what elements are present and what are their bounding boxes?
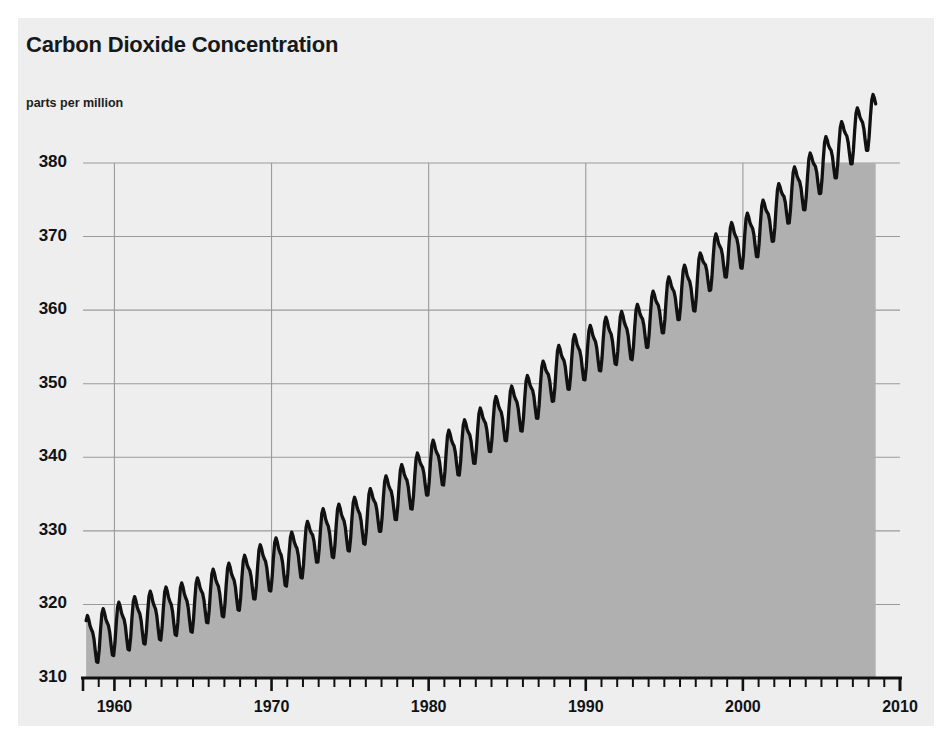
- x-axis-tick-label: 1980: [389, 698, 469, 716]
- x-axis-tick-label: 1990: [546, 698, 626, 716]
- y-axis-tick-label: 370: [7, 226, 67, 246]
- x-axis-tick-label: 1970: [232, 698, 312, 716]
- y-axis-tick-label: 330: [7, 520, 67, 540]
- chart-plot: [0, 0, 952, 744]
- x-axis-tick-label: 1960: [74, 698, 154, 716]
- y-axis-tick-label: 310: [7, 667, 67, 687]
- axes: [81, 678, 902, 691]
- area-fill: [86, 95, 876, 678]
- y-axis-tick-label: 320: [7, 593, 67, 613]
- y-axis-tick-label: 340: [7, 446, 67, 466]
- x-axis-tick-label: 2000: [703, 698, 783, 716]
- y-axis-tick-label: 360: [7, 299, 67, 319]
- x-axis-minor-ticks: [83, 678, 900, 691]
- y-axis-tick-label: 350: [7, 373, 67, 393]
- chart-page: Carbon Dioxide Concentration parts per m…: [0, 0, 952, 744]
- y-axis-tick-label: 380: [7, 152, 67, 172]
- x-axis-tick-label: 2010: [860, 698, 940, 716]
